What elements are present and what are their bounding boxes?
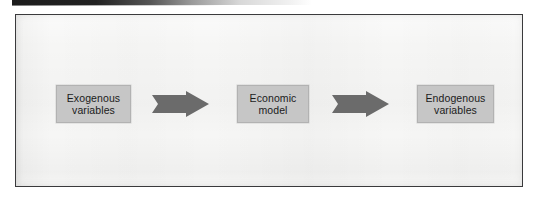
flow-arrow-right-icon [332, 91, 389, 117]
figure-frame: Exogenous variables Economic model Endog… [15, 14, 523, 187]
flow-arrow-right-icon [152, 91, 209, 117]
arrow-right-glyph [332, 91, 389, 117]
flow-node-exogenous-variables: Exogenous variables [56, 85, 131, 123]
arrow-right-glyph [152, 91, 209, 117]
flow-node-label: Exogenous variables [63, 92, 124, 117]
figure-screenshot: Exogenous variables Economic model Endog… [0, 0, 539, 200]
flow-node-endogenous-variables: Endogenous variables [417, 85, 494, 123]
process-flow: Exogenous variables Economic model Endog… [16, 15, 522, 186]
flow-node-label: Economic model [246, 92, 301, 117]
flow-node-label: Endogenous variables [422, 92, 490, 117]
flow-node-economic-model: Economic model [237, 85, 309, 123]
page-edge-scan-artifact-fade [12, 5, 222, 6]
